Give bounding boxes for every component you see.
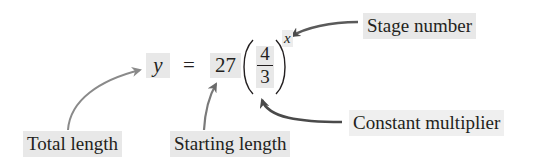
exponent-x: x — [282, 30, 293, 47]
fraction-four-thirds: 4 3 — [257, 44, 273, 87]
label-total-length: Total length — [23, 131, 122, 157]
label-constant-multiplier: Constant multiplier — [349, 110, 504, 136]
fraction-numerator: 4 — [257, 44, 273, 64]
label-starting-length: Starting length — [170, 131, 290, 157]
fraction-denominator: 3 — [257, 67, 273, 87]
label-stage-number: Stage number — [363, 13, 476, 39]
